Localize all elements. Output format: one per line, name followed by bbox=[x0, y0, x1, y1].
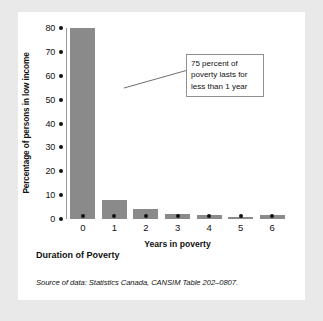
x-tick-4: 4 bbox=[193, 219, 225, 233]
y-tick-label: 70 bbox=[42, 47, 55, 57]
x-tick-label: 0 bbox=[80, 222, 85, 233]
x-tick-6: 6 bbox=[256, 219, 288, 233]
x-tick-dot-icon bbox=[176, 214, 180, 218]
y-tick-dot-icon bbox=[59, 122, 63, 126]
y-tick-dot-icon bbox=[59, 145, 63, 149]
y-tick-label: 50 bbox=[42, 95, 55, 105]
y-tick-80: 80 bbox=[42, 23, 66, 33]
y-tick-label: 0 bbox=[42, 214, 55, 224]
callout-leader-line bbox=[124, 70, 188, 88]
x-tick-0: 0 bbox=[67, 219, 99, 233]
figure-page: Percentage of persons in low income 8070… bbox=[0, 0, 323, 321]
x-tick-dot-icon bbox=[81, 214, 85, 218]
y-tick-40: 40 bbox=[42, 119, 66, 129]
figure-card: Percentage of persons in low income 8070… bbox=[18, 12, 305, 300]
x-axis-ticks: 0123456 bbox=[67, 219, 288, 233]
y-tick-10: 10 bbox=[42, 190, 66, 200]
x-tick-3: 3 bbox=[162, 219, 194, 233]
bar-cell bbox=[99, 28, 131, 219]
bar-cell bbox=[130, 28, 162, 219]
x-tick-2: 2 bbox=[130, 219, 162, 233]
bar-0 bbox=[70, 28, 95, 219]
y-tick-70: 70 bbox=[42, 47, 66, 57]
x-tick-label: 2 bbox=[143, 222, 148, 233]
y-tick-label: 30 bbox=[42, 142, 55, 152]
y-tick-label: 80 bbox=[42, 23, 55, 33]
y-axis-label: Percentage of persons in low income bbox=[22, 52, 31, 193]
y-tick-label: 20 bbox=[42, 166, 55, 176]
x-axis-label: Years in poverty bbox=[67, 239, 288, 249]
x-tick-5: 5 bbox=[225, 219, 257, 233]
y-tick-50: 50 bbox=[42, 95, 66, 105]
x-tick-dot-icon bbox=[239, 214, 243, 218]
y-tick-dot-icon bbox=[59, 193, 63, 197]
figure-title: Duration of Poverty bbox=[36, 250, 120, 260]
x-tick-label: 6 bbox=[270, 222, 275, 233]
y-tick-dot-icon bbox=[59, 98, 63, 102]
y-tick-30: 30 bbox=[42, 142, 66, 152]
y-tick-dot-icon bbox=[59, 169, 63, 173]
x-tick-dot-icon bbox=[144, 214, 148, 218]
x-tick-label: 1 bbox=[112, 222, 117, 233]
y-tick-60: 60 bbox=[42, 71, 66, 81]
y-tick-20: 20 bbox=[42, 166, 66, 176]
y-tick-dot-icon bbox=[59, 217, 63, 221]
plot-area: Percentage of persons in low income 8070… bbox=[66, 28, 288, 219]
y-tick-label: 40 bbox=[42, 119, 55, 129]
x-tick-label: 4 bbox=[206, 222, 211, 233]
x-tick-label: 5 bbox=[238, 222, 243, 233]
y-tick-dot-icon bbox=[59, 26, 63, 30]
bar-cell bbox=[67, 28, 99, 219]
y-tick-dot-icon bbox=[59, 50, 63, 54]
x-tick-1: 1 bbox=[99, 219, 131, 233]
callout-box: 75 percent of poverty lasts for less tha… bbox=[186, 54, 264, 97]
y-tick-label: 10 bbox=[42, 190, 55, 200]
y-tick-dot-icon bbox=[59, 74, 63, 78]
figure-source: Source of data: Statistics Canada, CANSI… bbox=[36, 278, 238, 287]
x-tick-label: 3 bbox=[175, 222, 180, 233]
y-tick-0: 0 bbox=[42, 214, 66, 224]
y-tick-label: 60 bbox=[42, 71, 55, 81]
